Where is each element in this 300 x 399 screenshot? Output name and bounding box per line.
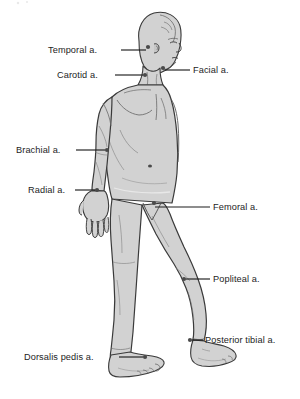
pressure-point-marker-facial[interactable] <box>161 66 165 70</box>
label-carotid: Carotid a. <box>57 71 98 80</box>
near-foot <box>109 352 165 377</box>
far-leg <box>142 203 206 341</box>
pressure-point-marker-carotid[interactable] <box>143 73 147 77</box>
label-femoral: Femoral a. <box>213 203 258 212</box>
pressure-point-marker-brachial[interactable] <box>105 148 109 152</box>
label-brachial: Brachial a. <box>16 146 61 155</box>
pressure-point-marker-popliteal[interactable] <box>182 277 186 281</box>
hand-palm <box>83 191 109 222</box>
pressure-point-marker-radial[interactable] <box>95 188 99 192</box>
torso <box>103 85 178 203</box>
near-leg <box>110 199 142 360</box>
label-facial: Facial a. <box>193 66 229 75</box>
diagram-page: Temporal a.Carotid a.Facial a.Brachial a… <box>0 0 300 399</box>
finger-ring <box>98 220 104 237</box>
label-temporal: Temporal a. <box>48 46 97 55</box>
ear <box>154 44 159 53</box>
label-dorsalis-pedis: Dorsalis pedis a. <box>24 353 94 362</box>
label-popliteal: Popliteal a. <box>213 275 260 284</box>
finger-index <box>86 219 92 235</box>
navel <box>148 164 152 167</box>
pressure-point-marker-femoral[interactable] <box>152 201 156 205</box>
finger-middle <box>92 221 98 238</box>
pressure-point-marker-temporal[interactable] <box>146 45 150 49</box>
label-radial: Radial a. <box>28 186 65 195</box>
pressure-point-marker-dorsalis-pedis[interactable] <box>143 355 147 359</box>
pressure-point-marker-posterior-tibial[interactable] <box>188 338 192 342</box>
finger-little <box>104 217 109 233</box>
label-posterior-tibial: Posterior tibial a. <box>205 336 275 345</box>
